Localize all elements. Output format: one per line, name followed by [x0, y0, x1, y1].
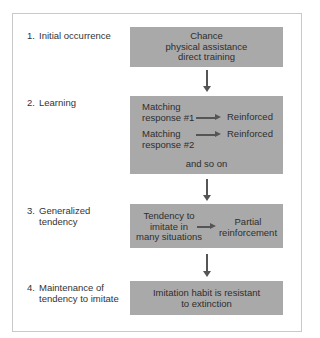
partial-reinforcement: Partial reinforcement [216, 217, 280, 238]
step-4-box: Imitation habit is resistant to extincti… [130, 281, 283, 315]
matching-response-2-line: Matching [142, 129, 194, 140]
down-arrow-icon [206, 179, 208, 196]
tendency-to-imitate: Tendency to imitate in many situations [136, 211, 202, 243]
and-so-on: and so on [130, 159, 283, 170]
step-2-label: 2.Learning [27, 97, 76, 108]
step-4-number: 4. [27, 282, 39, 293]
matching-response-2: Matching response #2 [142, 129, 194, 150]
tendency-line: many situations [136, 232, 202, 243]
reinforced-1: Reinforced [227, 112, 273, 123]
right-arrow-icon [196, 134, 216, 136]
step-4-label-text: tendency to imitate [27, 293, 119, 304]
matching-response-1-line: Matching [142, 102, 194, 113]
step-1-number: 1. [27, 30, 39, 41]
down-arrow-icon [206, 70, 208, 87]
matching-response-1: Matching response #1 [142, 102, 194, 123]
step-1-box: Chance physical assistance direct traini… [130, 27, 283, 67]
step-1-box-line: Chance [130, 31, 283, 42]
reinforced-2: Reinforced [227, 129, 273, 140]
step-3-label: 3.Generalized tendency [27, 205, 90, 227]
right-arrow-icon [197, 226, 211, 228]
down-arrow-icon [206, 254, 208, 272]
matching-response-2-line: response #2 [142, 140, 194, 151]
step-4-box-line: to extinction [130, 299, 283, 310]
step-4-label: 4.Maintenance of tendency to imitate [27, 282, 119, 304]
step-2-label-text: Learning [39, 97, 76, 108]
matching-response-1-line: response #1 [142, 113, 194, 124]
right-arrow-icon [196, 117, 216, 119]
tendency-line: Tendency to [136, 211, 202, 222]
step-3-label-text: Generalized [39, 205, 90, 216]
step-1-label: 1.Initial occurrence [27, 30, 111, 41]
step-1-box-line: direct training [130, 52, 283, 63]
step-4-box-line: Imitation habit is resistant [130, 288, 283, 299]
step-2-number: 2. [27, 97, 39, 108]
step-3-label-text: tendency [27, 216, 90, 227]
partial-reinforcement-line: reinforcement [216, 228, 280, 239]
step-3-number: 3. [27, 205, 39, 216]
partial-reinforcement-line: Partial [216, 217, 280, 228]
step-2-box: Matching response #1 Reinforced Matching… [130, 96, 283, 174]
step-4-label-text: Maintenance of [39, 282, 104, 293]
step-3-box: Tendency to imitate in many situations P… [130, 204, 283, 248]
step-1-label-text: Initial occurrence [39, 30, 111, 41]
